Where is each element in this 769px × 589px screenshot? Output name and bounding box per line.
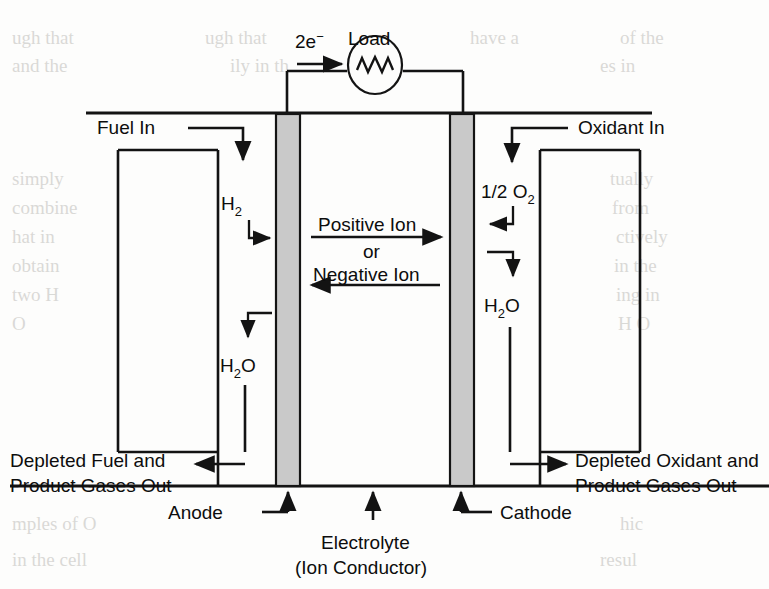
bleed-line: two H xyxy=(12,284,59,305)
fuel-in-label: Fuel In xyxy=(97,117,155,138)
bleed-line: es in xyxy=(600,55,636,76)
hydrogen-to-anode-arrow xyxy=(249,220,270,238)
bleed-line: from xyxy=(612,197,649,218)
bleed-line: have a xyxy=(470,27,520,48)
ion-positive-label: Positive Ion xyxy=(318,214,416,235)
bleed-line: hic xyxy=(620,513,643,534)
water-left-label: H2O xyxy=(220,355,256,381)
fuel-channel xyxy=(118,150,218,486)
load-resistor-zigzag xyxy=(357,57,393,72)
fuel-cell-schematic: ugh that ugh that have a of the and the … xyxy=(0,0,769,589)
oxygen-to-cathode-arrow xyxy=(490,206,513,224)
bleed-line: ugh that xyxy=(12,27,74,48)
bleed-line: in the cell xyxy=(12,549,87,570)
water-left-arrow xyxy=(248,313,272,337)
depleted-oxidant-label-line1: Depleted Oxidant and xyxy=(575,450,759,471)
depleted-oxidant-label-line2: Product Gases Out xyxy=(575,475,737,496)
bleed-line: ing in xyxy=(616,284,660,305)
bleed-line: ugh that xyxy=(205,27,267,48)
anode-label: Anode xyxy=(168,502,223,523)
bleed-line: mples of O xyxy=(12,513,96,534)
anode-callout xyxy=(262,492,288,512)
bleed-line: H O xyxy=(618,313,650,334)
electrolyte-label-line2: (Ion Conductor) xyxy=(295,557,427,578)
bleed-line: tually xyxy=(610,168,654,189)
ion-negative-label: Negative Ion xyxy=(313,264,420,285)
fuel-in-arrow xyxy=(188,128,243,160)
load-label: Load xyxy=(348,28,390,49)
bleed-line: obtain xyxy=(12,255,60,276)
hydrogen-label: H2 xyxy=(221,193,242,219)
bleed-line: combine xyxy=(12,197,77,218)
water-right-arrow xyxy=(487,252,513,276)
ion-or-label: or xyxy=(363,241,381,262)
bleed-line: resul xyxy=(600,549,637,570)
bleed-line: ctively xyxy=(616,226,668,247)
electrolyte-label-line1: Electrolyte xyxy=(321,532,410,553)
bleed-line: ily in th xyxy=(230,55,290,76)
bleed-line: hat in xyxy=(12,226,55,247)
bleed-line: simply xyxy=(12,168,64,189)
electron-flow-label: 2e− xyxy=(295,29,324,52)
oxidant-in-label: Oxidant In xyxy=(578,117,665,138)
fuel-in-flow xyxy=(188,128,243,160)
fuel-cell-diagram: ugh that ugh that have a of the and the … xyxy=(0,0,769,589)
depleted-fuel-label-line1: Depleted Fuel and xyxy=(10,450,165,471)
oxygen-label: 1/2 O2 xyxy=(481,181,535,207)
bleed-line: in the xyxy=(614,255,657,276)
bleed-line: O xyxy=(12,313,26,334)
cathode-callout xyxy=(461,492,492,512)
water-right-label: H2O xyxy=(484,295,520,321)
bleed-line: and the xyxy=(12,55,67,76)
cathode-label: Cathode xyxy=(500,502,572,523)
anode-electrode-bar xyxy=(276,114,300,486)
cathode-electrode-bar xyxy=(450,114,474,486)
depleted-fuel-label-line2: Product Gases Out xyxy=(10,475,172,496)
bleed-line: of the xyxy=(620,27,664,48)
